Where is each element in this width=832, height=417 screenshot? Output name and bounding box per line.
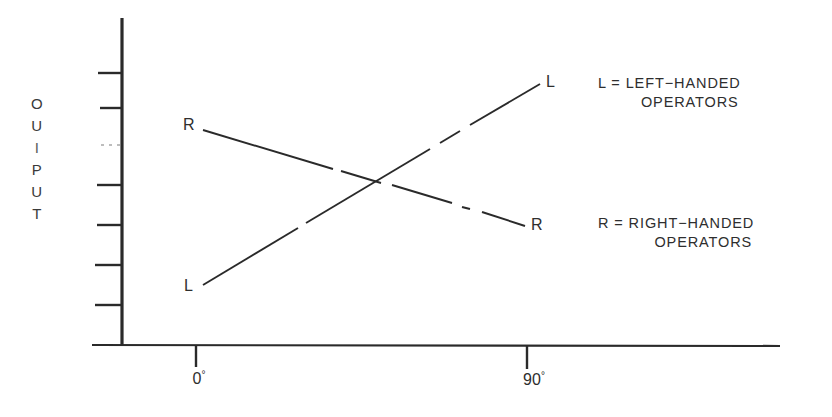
y-axis-title-glyph: I bbox=[35, 140, 40, 162]
series-label-l-left: L bbox=[184, 277, 193, 295]
legend-entry-right-handed: R = RIGHT−HANDED OPERATORS bbox=[598, 214, 754, 252]
chart-plot-area bbox=[0, 0, 832, 417]
legend-left-handed-line1: L = LEFT−HANDED bbox=[598, 75, 741, 91]
x-tick-value: 0 bbox=[193, 370, 202, 387]
series-label-l-right: L bbox=[546, 73, 555, 91]
y-axis-title-glyph: P bbox=[32, 162, 43, 184]
series-label-r-left: R bbox=[183, 116, 195, 134]
x-tick-label-90deg: 90° bbox=[523, 371, 545, 389]
y-axis-title-glyph: U bbox=[31, 184, 42, 206]
x-tick-value: 90 bbox=[523, 371, 541, 388]
legend-right-handed-line2: OPERATORS bbox=[598, 233, 754, 252]
series-line-r bbox=[203, 130, 525, 226]
legend-entry-left-handed: L = LEFT−HANDED OPERATORS bbox=[598, 74, 741, 112]
degree-symbol: ° bbox=[541, 370, 545, 381]
legend-right-handed-line1: R = RIGHT−HANDED bbox=[598, 215, 754, 231]
y-axis-title-glyph: O bbox=[31, 96, 43, 118]
y-axis-title-glyph: T bbox=[32, 206, 42, 228]
y-axis-title-glyph: U bbox=[31, 118, 42, 140]
degree-symbol: ° bbox=[201, 369, 205, 380]
x-tick-label-0deg: 0° bbox=[193, 370, 206, 388]
chart-figure: O U I P U T 0° 90° R R L L L = LEFT−HAND… bbox=[0, 0, 832, 417]
legend-left-handed-line2: OPERATORS bbox=[598, 93, 741, 112]
series-line-l bbox=[203, 84, 540, 285]
series-label-r-right: R bbox=[531, 216, 543, 234]
y-axis-title: O U I P U T bbox=[22, 96, 52, 228]
